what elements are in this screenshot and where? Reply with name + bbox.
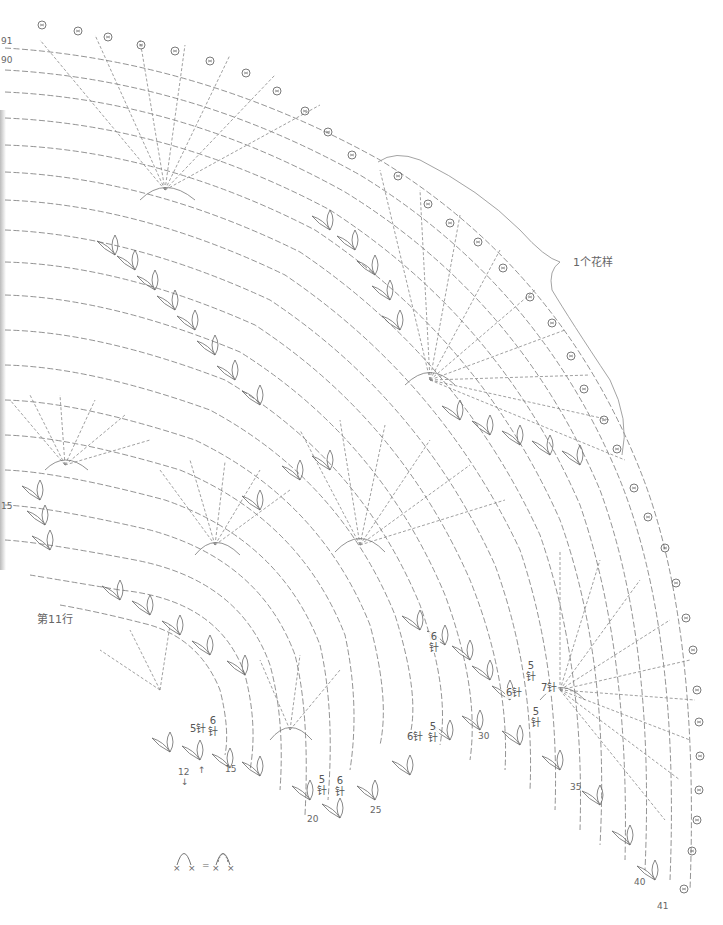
crochet-chart-drawing	[0, 0, 723, 925]
stitch-count-6-b: 6针	[207, 716, 219, 737]
stitch-count-5-f: 5针	[427, 722, 439, 743]
pattern-repeat-bracket	[378, 155, 624, 455]
row-number-90: 90	[1, 56, 12, 65]
pineapple-bodies	[45, 188, 585, 741]
row-number-35: 35	[570, 783, 581, 792]
legend-x-1: ×	[173, 864, 181, 873]
outer-picot-edge	[38, 21, 704, 893]
stitch-count-7-j: 7针	[540, 683, 558, 694]
row-number-40: 40	[634, 878, 645, 887]
stitch-count-6-d: 6针	[334, 776, 346, 797]
row-number-30: 30	[478, 732, 489, 741]
stitch-count-6-g: 6针	[406, 732, 424, 743]
stitch-count-5-k: 5针	[530, 707, 542, 728]
row-number-20: 20	[307, 815, 318, 824]
pattern-repeat-label: 1个花样	[573, 257, 613, 268]
stitch-count-5-h: 5针	[525, 661, 537, 682]
row-number-41: 41	[657, 902, 668, 911]
legend-equals: =	[202, 861, 210, 870]
row-number-25: 25	[370, 806, 381, 815]
row-number-15: 15	[225, 765, 236, 774]
stitch-count-6-i: 6针	[505, 688, 523, 699]
legend-x-4: ×	[227, 864, 235, 873]
row-number-91: 91	[1, 37, 12, 46]
arrow-up: ↑	[198, 766, 206, 775]
pineapple-fan-center	[300, 420, 505, 545]
legend-x-3: ×	[212, 864, 220, 873]
row-11-label: 第11行	[37, 614, 73, 625]
stitch-count-5-a: 5针	[189, 724, 207, 735]
pineapple-fan-left	[10, 395, 150, 465]
legend-x-2: ×	[188, 864, 196, 873]
stitch-count-6-e: 6针	[428, 632, 440, 653]
row-number-12: 12	[178, 768, 189, 777]
stitch-count-5-c: 5针	[316, 775, 328, 796]
pineapple-fan-top	[40, 35, 320, 190]
row-number-15-left: 15	[1, 502, 12, 511]
arrow-down: ↓	[181, 778, 189, 787]
